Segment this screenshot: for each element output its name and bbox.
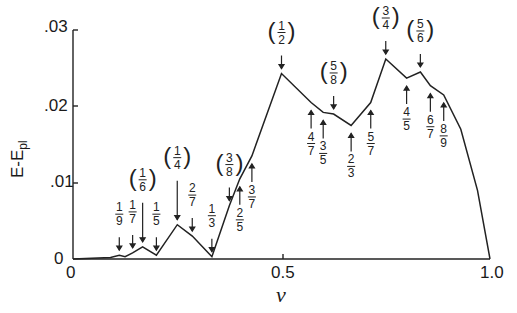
svg-text:7: 7 <box>189 195 196 209</box>
svg-text:8: 8 <box>440 122 447 136</box>
x-axis-label: ν <box>276 284 286 306</box>
svg-text:4: 4 <box>403 105 410 119</box>
arrowhead-icon <box>309 111 314 115</box>
svg-text:3: 3 <box>209 216 216 230</box>
annotation-6-7: 67 <box>426 113 434 141</box>
svg-text:6: 6 <box>427 113 434 127</box>
fraction-labels: 191716()1514()271338()253712()473558()23… <box>115 2 447 234</box>
y-axis-label-sub: pl <box>16 140 30 149</box>
annotation-8-9: 89 <box>440 122 448 150</box>
arrowhead-icon <box>404 86 409 90</box>
svg-text:7: 7 <box>308 144 315 158</box>
svg-text:6: 6 <box>139 180 146 194</box>
annotation-1-4: 14() <box>163 142 191 172</box>
x-tick-label-0: 0 <box>66 264 75 281</box>
svg-text:): ) <box>340 57 348 84</box>
annotation-1-5: 15 <box>152 200 160 228</box>
svg-text:5: 5 <box>403 119 410 133</box>
y-axis-label-main: E-E <box>8 150 27 178</box>
arrowhead-icon <box>279 65 284 69</box>
annotation-1-6: 16() <box>129 164 157 194</box>
arrowhead-icon <box>130 244 135 248</box>
svg-text:1: 1 <box>129 198 136 212</box>
y-tick-label-02: .02 <box>44 97 68 114</box>
svg-text:(: ( <box>320 57 328 84</box>
svg-text:7: 7 <box>249 197 256 211</box>
svg-text:3: 3 <box>382 4 389 18</box>
svg-text:5: 5 <box>153 214 160 228</box>
svg-text:6: 6 <box>417 31 424 45</box>
arrowhead-icon <box>349 133 354 137</box>
svg-text:5: 5 <box>417 17 424 31</box>
annotation-5-6: 56() <box>406 15 434 45</box>
annotation-1-3: 13 <box>208 202 216 230</box>
svg-text:(: ( <box>406 15 414 42</box>
svg-text:7: 7 <box>427 127 434 141</box>
svg-text:): ) <box>426 15 434 42</box>
svg-text:2: 2 <box>278 33 285 47</box>
svg-text:3: 3 <box>226 151 233 165</box>
svg-text:(: ( <box>163 142 171 169</box>
annotation-1-2: 12() <box>268 17 296 47</box>
svg-text:8: 8 <box>330 73 337 87</box>
annotation-1-7: 17 <box>129 198 137 226</box>
arrowhead-icon <box>237 187 242 191</box>
svg-text:(: ( <box>268 17 276 44</box>
arrowhead-icon <box>441 103 446 107</box>
annotation-2-5: 25 <box>236 206 244 234</box>
y-tick-label-0: 0 <box>54 250 63 267</box>
svg-text:1: 1 <box>174 144 181 158</box>
chart-plot: 191716()1514()271338()253712()473558()23… <box>0 0 517 313</box>
annotation-2-7: 27 <box>188 181 196 209</box>
annotation-4-7: 47 <box>307 130 315 158</box>
svg-text:1: 1 <box>116 200 123 214</box>
svg-text:(: ( <box>215 149 223 176</box>
y-axis-label: E-Epl <box>8 140 30 178</box>
energy-curve <box>73 59 490 259</box>
svg-text:2: 2 <box>189 181 196 195</box>
annotation-5-7: 57 <box>367 130 375 158</box>
svg-text:4: 4 <box>174 158 181 172</box>
arrowhead-icon <box>383 50 388 54</box>
arrowhead-icon <box>331 105 336 109</box>
y-tick-label-01: .01 <box>50 173 74 190</box>
svg-text:3: 3 <box>249 183 256 197</box>
arrowhead-icon <box>418 63 423 67</box>
annotation-3-8: 38() <box>215 149 243 179</box>
arrowhead-icon <box>190 227 195 231</box>
svg-text:4: 4 <box>382 18 389 32</box>
svg-text:2: 2 <box>348 152 355 166</box>
arrowhead-icon <box>428 94 433 98</box>
annotation-5-8: 58() <box>320 57 348 87</box>
annotation-1-9: 19 <box>115 200 123 228</box>
svg-text:9: 9 <box>116 214 123 228</box>
svg-text:): ) <box>235 149 243 176</box>
svg-text:3: 3 <box>320 139 327 153</box>
svg-text:5: 5 <box>330 59 337 73</box>
arrowhead-icon <box>154 246 159 250</box>
arrowhead-icon <box>175 216 180 220</box>
x-tick-label-10: 1.0 <box>480 264 504 281</box>
svg-text:1: 1 <box>153 200 160 214</box>
svg-text:): ) <box>392 2 400 29</box>
svg-text:1: 1 <box>209 202 216 216</box>
svg-text:): ) <box>288 17 296 44</box>
svg-text:7: 7 <box>367 144 374 158</box>
svg-text:): ) <box>149 164 157 191</box>
y-tick-label-03: .03 <box>44 18 68 35</box>
svg-text:(: ( <box>372 2 380 29</box>
annotation-4-5: 45 <box>403 105 411 133</box>
svg-text:7: 7 <box>129 212 136 226</box>
arrowhead-icon <box>321 120 326 124</box>
svg-text:5: 5 <box>367 130 374 144</box>
svg-text:5: 5 <box>236 220 243 234</box>
annotation-3-7: 37 <box>248 183 256 211</box>
svg-text:1: 1 <box>139 166 146 180</box>
annotation-3-5: 35 <box>319 139 327 167</box>
svg-text:9: 9 <box>440 136 447 150</box>
svg-text:3: 3 <box>348 166 355 180</box>
arrowhead-icon <box>117 246 122 250</box>
arrowhead-icon <box>140 238 145 242</box>
annotation-2-3: 23 <box>347 152 355 180</box>
svg-text:): ) <box>183 142 191 169</box>
